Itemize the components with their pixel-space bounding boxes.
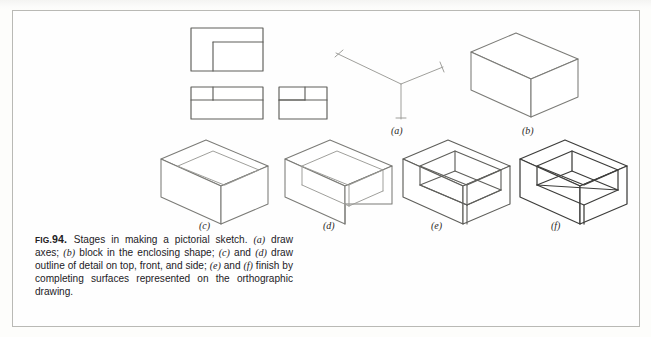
label-e: (e)	[431, 220, 443, 232]
panel-a-axes: (a)	[335, 50, 444, 137]
caption-body: Stages in making a pictorial sketch. (a)…	[35, 234, 293, 297]
page-bleed-through	[0, 0, 651, 9]
figure-label-prefix: FIG.	[35, 235, 52, 245]
figure-page: .ln { fill:none; stroke:#7b7b77; stroke-…	[0, 0, 651, 337]
panel-b-block: (b)	[471, 33, 578, 137]
label-a: (a)	[391, 125, 403, 137]
panel-d-front-side-detail: (d)	[285, 140, 392, 232]
front-view	[191, 87, 263, 119]
label-b: (b)	[522, 125, 534, 137]
figure-frame: .ln { fill:none; stroke:#7b7b77; stroke-…	[12, 10, 640, 327]
label-d: (d)	[323, 220, 335, 232]
figure-caption-block: FIG.94.Stages in making a pictorial sket…	[35, 233, 293, 299]
panel-e-surfaces: (e)	[403, 140, 510, 232]
panel-f-finished: (f)	[520, 140, 627, 232]
label-f: (f)	[551, 220, 561, 232]
figure-caption: FIG.94.Stages in making a pictorial sket…	[35, 233, 293, 299]
label-c: (c)	[199, 220, 211, 232]
orthographic-views	[191, 28, 327, 119]
top-view	[191, 28, 263, 71]
figure-label-number: 94.	[52, 233, 67, 245]
panel-c-top-detail: (c)	[161, 140, 268, 232]
side-view	[279, 87, 327, 119]
